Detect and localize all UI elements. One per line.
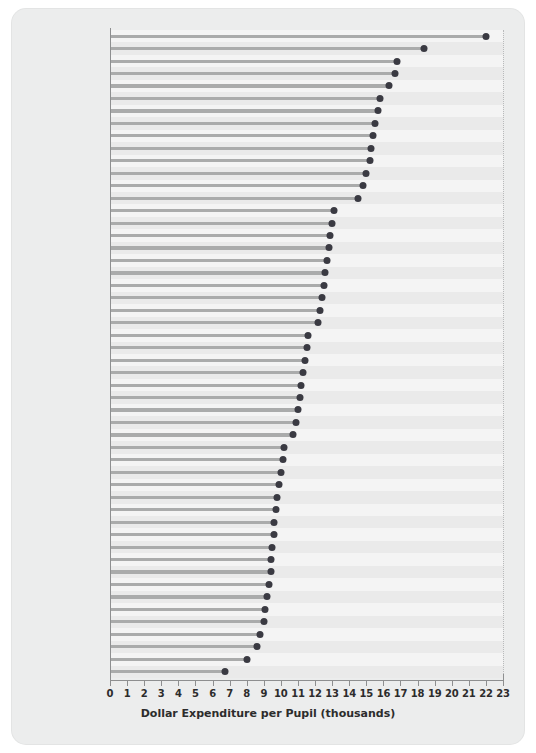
data-point[interactable] — [281, 444, 288, 451]
data-point[interactable] — [366, 157, 373, 164]
data-point[interactable] — [363, 170, 370, 177]
row-stem — [110, 97, 380, 100]
data-point[interactable] — [294, 406, 301, 413]
row-stem — [110, 84, 389, 87]
tick-mark-9 — [264, 680, 265, 686]
data-point[interactable] — [269, 544, 276, 551]
data-point[interactable] — [243, 656, 250, 663]
data-point[interactable] — [317, 307, 324, 314]
tick-mark-10 — [281, 680, 282, 686]
data-point[interactable] — [371, 120, 378, 127]
data-row: Illinois — [110, 254, 503, 266]
data-row: Arkansas — [110, 142, 503, 154]
data-point[interactable] — [392, 70, 399, 77]
data-point[interactable] — [368, 145, 375, 152]
row-stem — [110, 371, 303, 374]
data-point[interactable] — [320, 282, 327, 289]
data-row: Oklahoma — [110, 603, 503, 615]
row-stem — [110, 496, 277, 499]
data-point[interactable] — [301, 357, 308, 364]
data-row: North Carolina — [110, 591, 503, 603]
tick-label-9: 9 — [260, 688, 267, 699]
data-point[interactable] — [222, 668, 229, 675]
data-point[interactable] — [276, 481, 283, 488]
data-row: Nebraska — [110, 354, 503, 366]
gridline-23 — [503, 30, 504, 678]
data-point[interactable] — [330, 207, 337, 214]
data-point[interactable] — [370, 132, 377, 139]
row-stem — [110, 246, 329, 249]
data-row: Florida — [110, 553, 503, 565]
data-row: Virginia — [110, 242, 503, 254]
data-row: Missouri — [110, 466, 503, 478]
data-point[interactable] — [394, 58, 401, 65]
data-point[interactable] — [262, 606, 269, 613]
tick-label-10: 10 — [274, 688, 288, 699]
data-point[interactable] — [267, 556, 274, 563]
row-stem — [110, 147, 371, 150]
data-point[interactable] — [279, 456, 286, 463]
data-point[interactable] — [327, 232, 334, 239]
data-point[interactable] — [274, 494, 281, 501]
tick-mark-1 — [127, 680, 128, 686]
tick-label-12: 12 — [308, 688, 322, 699]
data-point[interactable] — [359, 182, 366, 189]
tick-mark-17 — [400, 680, 401, 686]
data-point[interactable] — [277, 469, 284, 476]
row-stem — [110, 533, 274, 536]
data-point[interactable] — [376, 95, 383, 102]
row-stem — [110, 658, 247, 661]
row-stem — [110, 633, 260, 636]
row-stem — [110, 608, 265, 611]
data-point[interactable] — [265, 581, 272, 588]
data-point[interactable] — [318, 294, 325, 301]
tick-label-7: 7 — [226, 688, 233, 699]
data-row: South Dakota — [110, 504, 503, 516]
tick-mark-11 — [298, 680, 299, 686]
data-point[interactable] — [289, 431, 296, 438]
data-point[interactable] — [296, 394, 303, 401]
data-point[interactable] — [271, 531, 278, 538]
data-point[interactable] — [267, 568, 274, 575]
data-point[interactable] — [298, 382, 305, 389]
data-point[interactable] — [354, 195, 361, 202]
y-axis-line — [110, 28, 111, 680]
data-point[interactable] — [271, 519, 278, 526]
tick-mark-15 — [366, 680, 367, 686]
data-point[interactable] — [272, 506, 279, 513]
tick-mark-13 — [332, 680, 333, 686]
data-point[interactable] — [421, 45, 428, 52]
data-row: Minnesota — [110, 279, 503, 291]
data-point[interactable] — [264, 593, 271, 600]
row-stem — [110, 521, 274, 524]
data-point[interactable] — [260, 618, 267, 625]
data-point[interactable] — [305, 332, 312, 339]
row-stem — [110, 508, 276, 511]
data-row: Oregon — [110, 317, 503, 329]
data-point[interactable] — [325, 244, 332, 251]
data-point[interactable] — [375, 107, 382, 114]
row-stem — [110, 359, 305, 362]
data-row: Wyoming — [110, 55, 503, 67]
data-point[interactable] — [322, 269, 329, 276]
data-point[interactable] — [329, 220, 336, 227]
tick-label-15: 15 — [360, 688, 374, 699]
row-stem — [110, 234, 330, 237]
data-point[interactable] — [293, 419, 300, 426]
data-point[interactable] — [303, 344, 310, 351]
row-stem — [110, 284, 324, 287]
data-point[interactable] — [257, 631, 264, 638]
tick-label-20: 20 — [445, 688, 459, 699]
data-point[interactable] — [315, 319, 322, 326]
data-point[interactable] — [300, 369, 307, 376]
data-point[interactable] — [324, 257, 331, 264]
row-stem — [110, 209, 334, 212]
data-point[interactable] — [385, 82, 392, 89]
row-stem — [110, 72, 395, 75]
tick-label-0: 0 — [107, 688, 114, 699]
data-row: Kansan — [110, 528, 503, 540]
data-row: Kentucky — [110, 479, 503, 491]
tick-mark-18 — [418, 680, 419, 686]
data-point[interactable] — [482, 33, 489, 40]
data-point[interactable] — [253, 643, 260, 650]
